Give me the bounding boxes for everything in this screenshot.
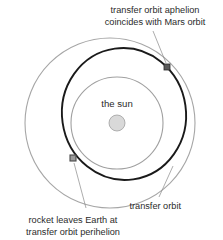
transfer-orbit-leader-line [159,166,173,197]
aphelion-label-line1: transfer orbit aphelion [111,5,200,15]
orbit-diagram: transfer orbit aphelion coincides with M… [0,0,223,240]
sun-label: the sun [101,98,132,109]
aphelion-marker [164,64,170,70]
transfer-orbit-label: transfer orbit [129,201,181,211]
aphelion-label-line2: coincides with Mars orbit [105,17,206,27]
perihelion-label-line2: transfer orbit perihelion [26,227,120,237]
perihelion-earth-marker [70,155,76,161]
orbit-diagram-canvas: transfer orbit aphelion coincides with M… [0,0,223,240]
perihelion-label-line1: rocket leaves Earth at [29,215,118,225]
sun-body [109,115,125,131]
